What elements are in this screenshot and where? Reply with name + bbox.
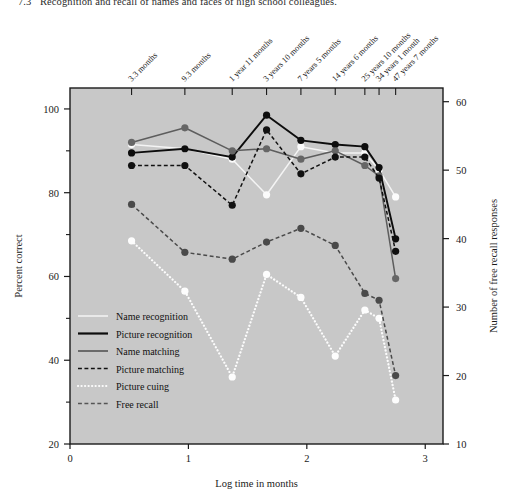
legend-label: Picture recognition — [116, 329, 192, 340]
data-point — [181, 124, 188, 131]
data-point — [263, 238, 270, 245]
data-point — [375, 315, 382, 322]
data-point — [392, 372, 399, 379]
data-point — [392, 396, 399, 403]
data-point — [229, 202, 236, 209]
data-point — [332, 141, 339, 148]
y2-tick-label: 50 — [456, 165, 467, 176]
y-axis-left-title: Percent correct — [13, 234, 24, 297]
legend-label: Picture cuing — [116, 381, 169, 392]
y-tick-label: 60 — [49, 271, 60, 282]
data-point — [297, 137, 304, 144]
data-point — [263, 271, 270, 278]
y-tick-label: 20 — [49, 439, 60, 450]
x-tick-label: 2 — [304, 453, 309, 464]
data-point — [297, 294, 304, 301]
legend-label: Name matching — [116, 346, 180, 357]
data-point — [297, 225, 304, 232]
y-tick-label: 80 — [49, 188, 60, 199]
data-point — [229, 154, 236, 161]
y2-tick-label: 40 — [456, 234, 467, 245]
top-axis-label: 9.3 months — [180, 51, 213, 84]
y2-tick-label: 10 — [456, 439, 467, 450]
y-axis-right-ticks: 102030405060 — [443, 97, 467, 450]
legend-label: Free recall — [116, 399, 159, 410]
data-point — [361, 290, 368, 297]
data-point — [263, 112, 270, 119]
y2-tick-label: 20 — [456, 371, 467, 382]
y2-tick-label: 30 — [456, 302, 467, 313]
data-point — [361, 162, 368, 169]
y-tick-label: 40 — [49, 355, 60, 366]
x-tick-label: 0 — [67, 453, 72, 464]
data-point — [361, 143, 368, 150]
data-point — [181, 145, 188, 152]
x-axis-title: Log time in months — [215, 478, 298, 489]
data-point — [181, 162, 188, 169]
x-tick-label: 1 — [186, 453, 191, 464]
data-point — [229, 147, 236, 154]
chart-svg: 0123 20406080100 102030405060 3.3 months… — [0, 0, 513, 501]
legend-label: Picture matching — [116, 364, 184, 375]
data-point — [128, 162, 135, 169]
y-axis-right-title: Number of free recall responses — [488, 199, 499, 333]
data-point — [297, 156, 304, 163]
top-axis-labels: 3.3 months9.3 months1 year 11 months3 ye… — [127, 31, 441, 84]
data-point — [332, 242, 339, 249]
x-axis-ticks: 0123 — [67, 444, 427, 464]
data-point — [128, 149, 135, 156]
y2-tick-label: 60 — [456, 97, 467, 108]
data-point — [332, 147, 339, 154]
data-point — [392, 248, 399, 255]
data-point — [128, 139, 135, 146]
x-tick-label: 3 — [423, 453, 428, 464]
data-point — [332, 352, 339, 359]
legend-label: Name recognition — [116, 311, 188, 322]
data-point — [229, 373, 236, 380]
data-point — [297, 143, 304, 150]
data-point — [297, 170, 304, 177]
data-point — [263, 191, 270, 198]
data-point — [375, 174, 382, 181]
data-point — [375, 297, 382, 304]
y-axis-left-ticks: 20406080100 — [43, 104, 70, 450]
data-point — [181, 288, 188, 295]
data-point — [361, 306, 368, 313]
y-tick-label: 100 — [43, 104, 59, 115]
data-point — [392, 193, 399, 200]
data-point — [332, 154, 339, 161]
data-point — [263, 126, 270, 133]
data-point — [263, 145, 270, 152]
data-point — [128, 201, 135, 208]
top-axis-label: 3.3 months — [127, 51, 160, 84]
data-point — [375, 164, 382, 171]
data-point — [361, 154, 368, 161]
data-point — [229, 256, 236, 263]
data-point — [392, 275, 399, 282]
data-point — [181, 249, 188, 256]
data-point — [128, 237, 135, 244]
figure-container: 7.3Recognition and recall of names and f… — [0, 0, 513, 501]
